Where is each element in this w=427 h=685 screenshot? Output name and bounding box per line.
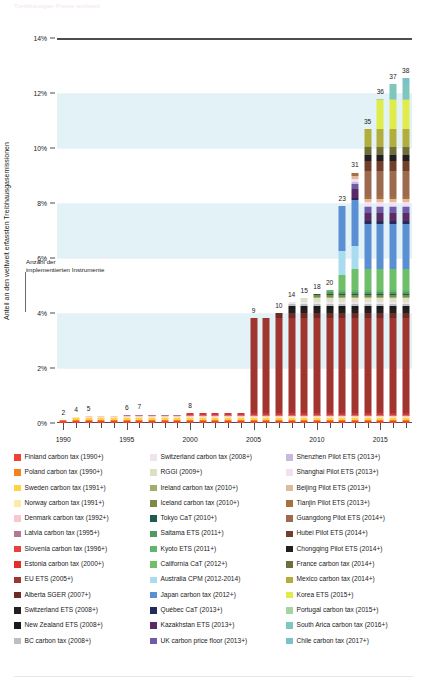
legend-swatch xyxy=(14,546,21,553)
legend-item[interactable]: Guangdong Pilot ETS (2014+) xyxy=(286,513,426,528)
legend-item[interactable]: UK carbon price floor (2013+) xyxy=(150,636,288,651)
y-axis-tick-mark xyxy=(50,38,55,39)
legend-item[interactable]: California CaT (2012+) xyxy=(150,559,288,574)
legend-item[interactable]: Switzerland carbon tax (2008+) xyxy=(150,452,288,467)
instrument-count-label: 38 xyxy=(402,67,409,74)
legend-item[interactable]: Chongqing Pilot ETS (2014+) xyxy=(286,544,426,559)
y-axis-tick-label: 12% xyxy=(33,90,47,97)
legend-item[interactable]: Korea ETS (2015+) xyxy=(286,590,426,605)
bar-segment xyxy=(389,161,396,171)
plot-band xyxy=(57,313,412,368)
bar-segment xyxy=(402,147,409,155)
plot-band xyxy=(57,93,412,148)
bar-segment xyxy=(275,318,282,413)
bar-segment xyxy=(326,421,333,423)
legend-swatch xyxy=(286,577,293,584)
x-axis-tick-minor xyxy=(177,423,178,428)
bar-segment xyxy=(377,147,384,155)
legend-item[interactable]: Shenzhen Pilot ETS (2013+) xyxy=(286,452,426,467)
bar-segment xyxy=(326,318,333,413)
bar-segment xyxy=(389,224,396,269)
legend-item[interactable]: RGGI (2009+) xyxy=(150,467,288,482)
legend-item[interactable]: Québec CaT (2013+) xyxy=(150,605,288,620)
plot-area: 1990199520002005201020152456789101415182… xyxy=(57,38,412,423)
x-axis-tick-minor xyxy=(368,423,369,428)
legend-label: BC carbon tax (2008+) xyxy=(25,636,92,646)
bar-2003 xyxy=(225,413,232,423)
bar-segment xyxy=(402,421,409,423)
bar-segment xyxy=(301,318,308,413)
y-axis-tick-mark xyxy=(50,313,55,314)
legend-swatch xyxy=(150,500,157,507)
legend-swatch xyxy=(14,500,21,507)
bar-segment xyxy=(313,421,320,423)
legend-item[interactable]: Shanghai Pilot ETS (2013+) xyxy=(286,467,426,482)
bar-segment xyxy=(351,269,358,290)
legend-label: Finland carbon tax (1990+) xyxy=(25,452,104,462)
legend-item[interactable]: Iceland carbon tax (2010+) xyxy=(150,498,288,513)
bar-segment xyxy=(389,147,396,155)
bar-segment xyxy=(339,275,346,290)
legend-item[interactable]: France carbon tax (2014+) xyxy=(286,559,426,574)
axis-top-line xyxy=(57,38,412,40)
x-axis-tick-major xyxy=(63,423,64,430)
bar-segment xyxy=(351,421,358,423)
x-axis-tick-major xyxy=(380,423,381,430)
y-axis-label-wrapper: Anteil an den weltweit erfassten Treibha… xyxy=(14,38,26,423)
bar-segment xyxy=(389,269,396,290)
bar-segment xyxy=(402,318,409,413)
x-axis-tick-minor xyxy=(139,423,140,428)
x-axis-tick-major xyxy=(127,423,128,430)
legend-item[interactable]: Saitama ETS (2011+) xyxy=(150,528,288,543)
x-axis-tick-minor xyxy=(101,423,102,428)
bar-segment xyxy=(351,200,358,245)
bar-segment xyxy=(402,213,409,221)
legend-item[interactable]: Hubei Pilot ETS (2014+) xyxy=(286,528,426,543)
legend-item[interactable]: BC carbon tax (2008+) xyxy=(14,636,152,651)
legend-item[interactable]: Beijing Pilot ETS (2013+) xyxy=(286,483,426,498)
legend-item[interactable]: Kyoto ETS (2011+) xyxy=(150,544,288,559)
legend-item[interactable]: Poland carbon tax (1990+) xyxy=(14,467,152,482)
legend-item[interactable]: Mexico carbon tax (2014+) xyxy=(286,574,426,589)
legend-item[interactable]: Tokyo CaT (2010+) xyxy=(150,513,288,528)
legend-item[interactable]: EU ETS (2005+) xyxy=(14,574,152,589)
legend-item[interactable]: Japan carbon tax (2012+) xyxy=(150,590,288,605)
legend-item[interactable]: Alberta SGER (2007+) xyxy=(14,590,152,605)
legend-item[interactable]: Tianjin Pilot ETS (2013+) xyxy=(286,498,426,513)
bar-1998 xyxy=(161,415,168,423)
legend-item[interactable]: Chile carbon tax (2017+) xyxy=(286,636,426,651)
legend-item[interactable]: Estonia carbon tax (2000+) xyxy=(14,559,152,574)
bar-segment xyxy=(288,318,295,413)
legend-item[interactable]: Ireland carbon tax (2010+) xyxy=(150,483,288,498)
legend-item[interactable]: Switzerland ETS (2008+) xyxy=(14,605,152,620)
legend-label: Japan carbon tax (2012+) xyxy=(161,590,236,600)
legend-item[interactable]: Norway carbon tax (1991+) xyxy=(14,498,152,513)
legend-item[interactable]: Portugal carbon tax (2015+) xyxy=(286,605,426,620)
y-axis-tick-mark xyxy=(50,203,55,204)
bar-2005 xyxy=(250,318,257,423)
bar-segment xyxy=(351,189,358,197)
bar-segment xyxy=(389,213,396,221)
legend-item[interactable]: Kazakhstan ETS (2013+) xyxy=(150,620,288,635)
legend-label: Alberta SGER (2007+) xyxy=(25,590,91,600)
x-axis-tick-label: 2000 xyxy=(183,436,198,443)
instrument-count-label: 36 xyxy=(377,88,384,95)
legend-swatch xyxy=(14,607,21,614)
legend-label: Australia CPM (2012-2014) xyxy=(161,574,241,584)
bar-segment xyxy=(389,129,396,147)
bar-2008 xyxy=(288,302,295,423)
legend-item[interactable]: Slovenia carbon tax (1996+) xyxy=(14,544,152,559)
bar-1993 xyxy=(98,416,105,423)
bar-segment xyxy=(364,171,371,196)
legend-item[interactable]: Finland carbon tax (1990+) xyxy=(14,452,152,467)
legend-item[interactable]: Australia CPM (2012-2014) xyxy=(150,574,288,589)
legend-swatch xyxy=(150,592,157,599)
legend-item[interactable]: Sweden carbon tax (1991+) xyxy=(14,483,152,498)
x-axis-tick-minor xyxy=(76,423,77,428)
instrument-count-label: 23 xyxy=(339,195,346,202)
legend-item[interactable]: New Zealand ETS (2008+) xyxy=(14,620,152,635)
legend-item[interactable]: Latvia carbon tax (1995+) xyxy=(14,528,152,543)
legend-item[interactable]: South Arica carbon tax (2016+) xyxy=(286,620,426,635)
legend-swatch xyxy=(14,592,21,599)
legend-item[interactable]: Denmark carbon tax (1992+) xyxy=(14,513,152,528)
